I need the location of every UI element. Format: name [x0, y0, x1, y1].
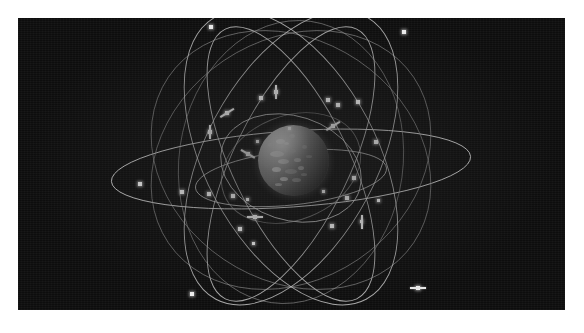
satellite-marker: [259, 96, 263, 100]
satellite-marker: [246, 198, 249, 201]
satellite-marker: [190, 292, 194, 296]
satellite-marker: [225, 111, 229, 115]
satellite-marker: [253, 215, 257, 219]
space-background-panel: [18, 18, 565, 310]
satellite-marker: [352, 176, 356, 180]
satellite-marker: [208, 130, 212, 134]
satellite-marker: [322, 190, 325, 193]
satellite-marker: [209, 25, 213, 29]
satellite-solar-panel: [410, 287, 426, 289]
satellite-marker: [360, 220, 363, 223]
satellite-marker: [356, 100, 360, 104]
satellite-marker: [274, 90, 278, 94]
satellite-marker: [180, 190, 184, 194]
earth-terminator-shading: [258, 125, 329, 196]
satellite-marker: [374, 140, 378, 144]
figure-canvas: [0, 0, 584, 333]
satellite-marker: [246, 152, 250, 156]
satellite-marker: [416, 286, 420, 290]
satellite-marker: [336, 103, 340, 107]
satellite-marker: [402, 30, 406, 34]
earth-globe: [258, 125, 329, 196]
satellite-marker: [326, 98, 330, 102]
satellite-marker: [377, 199, 380, 202]
constellation-scene: [18, 18, 565, 310]
satellite-marker: [231, 194, 235, 198]
satellite-marker: [138, 182, 142, 186]
satellite-marker: [252, 242, 255, 245]
satellite-solar-panel: [209, 125, 211, 139]
satellite-solar-panel: [247, 216, 263, 218]
satellite-marker: [331, 124, 335, 128]
satellite-solar-panel: [275, 85, 277, 99]
satellite-marker: [288, 127, 291, 130]
satellite-solar-panel: [361, 215, 363, 229]
satellite-marker: [345, 196, 349, 200]
satellite-marker: [330, 224, 334, 228]
satellite-marker: [207, 192, 211, 196]
satellite-marker: [238, 227, 242, 231]
satellite-marker: [256, 140, 259, 143]
